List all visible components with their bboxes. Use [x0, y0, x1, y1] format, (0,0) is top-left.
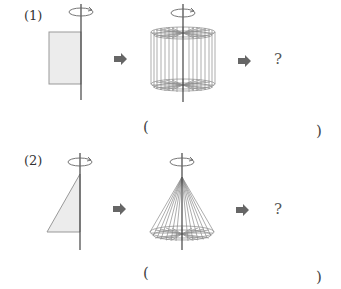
problem-2-answer-open: ( [143, 264, 149, 282]
problem-2-triangle [47, 174, 80, 232]
problem-2-answer-close: ) [316, 268, 322, 286]
right-arrow-icon [238, 55, 251, 67]
problem-2-question-mark: ? [274, 200, 282, 218]
problem-1-question-mark: ? [274, 50, 282, 68]
diagram-canvas [0, 0, 341, 289]
right-arrow-icon [113, 203, 126, 215]
right-arrow-icon [114, 53, 127, 65]
problem-1-rectangle [49, 32, 81, 84]
right-arrow-icon [236, 204, 249, 216]
problem-1-answer-open: ( [143, 118, 149, 136]
problem-1-answer-close: ) [316, 122, 322, 140]
